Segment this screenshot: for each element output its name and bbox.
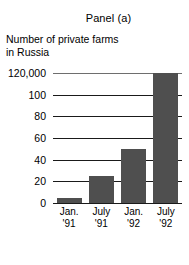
x-tick-label-2-line-1: Jan. xyxy=(118,206,150,218)
bar-jan-91 xyxy=(57,198,82,203)
bar-jan-92 xyxy=(121,149,146,203)
y-tick-label-60: 60 xyxy=(0,133,46,144)
x-tick-label-3: July'92 xyxy=(150,206,182,230)
chart-figure: Panel (a) Number of private farms in Rus… xyxy=(0,0,189,265)
x-axis-tick-labels: Jan.'91July'91Jan.'92July'92 xyxy=(53,206,182,240)
x-tick-label-3-line-1: July xyxy=(150,206,182,218)
panel-title: Panel (a) xyxy=(0,12,189,25)
x-tick-label-0: Jan.'91 xyxy=(53,206,85,230)
y-axis-tick-labels: 020406080100120,000 xyxy=(0,73,49,203)
bar-july-92 xyxy=(153,73,178,203)
x-tick-label-2-line-2: '92 xyxy=(118,218,150,230)
y-axis-caption-line-1: Number of private farms xyxy=(6,33,186,46)
y-axis-caption-line-2: in Russia xyxy=(6,46,186,59)
y-tick-label-80: 80 xyxy=(0,111,46,122)
bar-july-91 xyxy=(89,176,114,203)
x-tick-label-1: July'91 xyxy=(85,206,117,230)
y-tick-label-100: 100 xyxy=(0,90,46,101)
x-tick-label-0-line-2: '91 xyxy=(53,218,85,230)
plot-area xyxy=(53,73,182,203)
y-tick-label-120: 120,000 xyxy=(0,68,46,79)
y-tick-label-0: 0 xyxy=(0,198,46,209)
x-tick-label-1-line-1: July xyxy=(85,206,117,218)
x-tick-label-0-line-1: Jan. xyxy=(53,206,85,218)
x-tick-label-3-line-2: '92 xyxy=(150,218,182,230)
y-tick-label-20: 20 xyxy=(0,176,46,187)
x-tick-label-2: Jan.'92 xyxy=(118,206,150,230)
gridline-0 xyxy=(53,203,182,204)
x-tick-label-1-line-2: '91 xyxy=(85,218,117,230)
y-tick-label-40: 40 xyxy=(0,155,46,166)
y-axis-caption: Number of private farms in Russia xyxy=(6,33,186,58)
